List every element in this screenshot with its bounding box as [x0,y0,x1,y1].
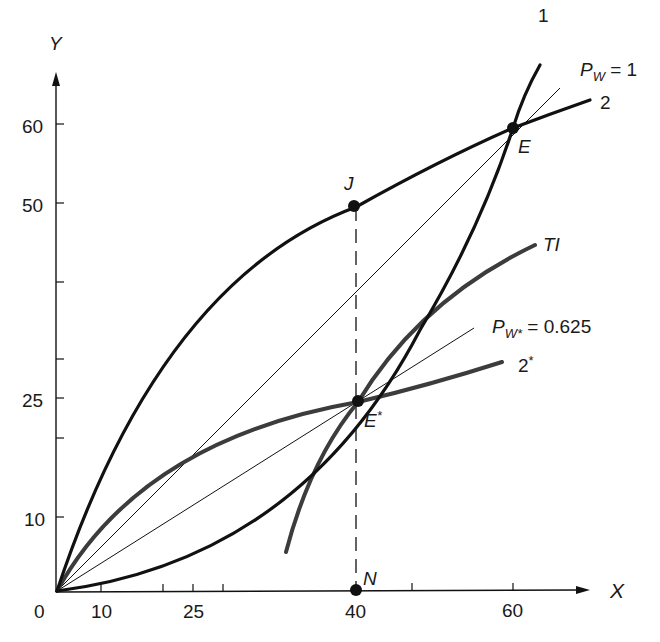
y-tick-label-60: 60 [22,117,43,136]
x-axis-label: X [610,580,624,601]
pw-value: = 1 [605,59,637,80]
curve-2-star [57,362,502,591]
pw-sub: W [593,69,605,84]
x-tick-label-25: 25 [183,602,204,621]
curve-2-star-sup: * [529,353,534,368]
pw-star-label: PW* = 0.625 [492,317,591,336]
y-axis-arrow-icon [52,72,60,86]
point-e-star [352,395,364,407]
curve-ti-label: TI [543,235,560,254]
point-j-label: J [344,174,354,193]
x-tick-label-40: 40 [345,602,366,621]
point-n [350,584,362,596]
curve-2-star-label: 2* [518,356,534,375]
y-ticks [56,124,64,517]
y-tick-label-50: 50 [22,196,43,215]
x-axis-arrow-icon [576,586,590,594]
price-line-pw [57,88,560,591]
point-e-star-label: E* [364,411,382,430]
y-tick-label-25: 25 [22,391,43,410]
point-e-star-text: E [364,410,377,431]
point-n-label: N [363,569,377,588]
curve-2 [57,100,590,591]
y-axis-label: Y [49,34,62,53]
origin-label: 0 [34,602,45,621]
pw-star-sub: W* [505,326,522,341]
point-e-label: E [518,137,531,156]
x-tick-label-10: 10 [91,602,112,621]
pw-star-value: = 0.625 [522,316,591,337]
pw-star-p: P [492,316,505,337]
pw-p: P [580,59,593,80]
point-e [507,122,519,134]
price-line-pw-star [57,328,474,591]
point-j [348,200,360,212]
curve-2-star-text: 2 [518,355,529,376]
point-e-star-sup: * [377,408,382,423]
curve-1-label: 1 [538,6,549,25]
x-tick-label-60: 60 [502,601,523,620]
curve-ti [286,245,535,552]
curve-2-label: 2 [600,93,611,112]
x-axis [56,590,580,592]
pw-label: PW = 1 [580,60,637,79]
y-tick-label-10: 10 [24,510,45,529]
